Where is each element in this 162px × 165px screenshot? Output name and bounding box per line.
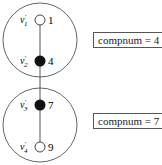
vertex-v3-filled: [35, 100, 46, 111]
vertex-label-v4: v′4: [20, 140, 28, 155]
graph-diagram: v′1 v′2 v′3 v′4 1 4 7 9: [0, 0, 162, 165]
vertex-v4-open: [35, 142, 45, 152]
vertex-value-9: 9: [48, 141, 54, 153]
vertex-label-v2: v′2: [20, 54, 28, 69]
vertex-label-v3: v′3: [20, 98, 28, 113]
vertex-value-4: 4: [48, 55, 54, 67]
vertex-v2-filled: [35, 56, 46, 67]
vertex-value-7: 7: [48, 99, 54, 111]
vertex-value-1: 1: [48, 14, 54, 26]
vertex-v1-open: [35, 15, 45, 25]
vertex-label-v1: v′1: [20, 13, 27, 28]
compnum-box-top: compnum = 4: [93, 32, 162, 48]
compnum-box-bottom: compnum = 7: [93, 113, 162, 129]
